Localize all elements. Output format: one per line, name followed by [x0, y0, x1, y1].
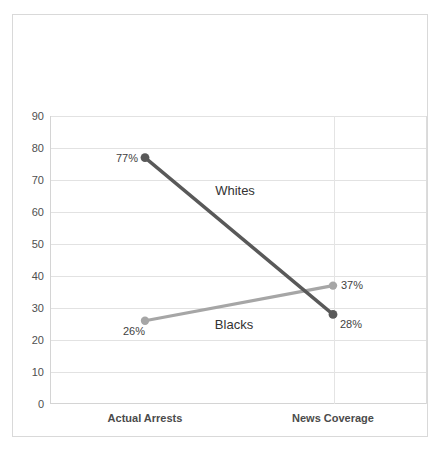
y-tick-30: 30 — [4, 302, 44, 314]
gridline-10 — [51, 372, 426, 373]
y-tick-70: 70 — [4, 174, 44, 186]
category-gridline-news-coverage — [334, 116, 335, 404]
data-label-blacks-actual-arrests: 26% — [123, 325, 145, 337]
data-label-whites-actual-arrests: 77% — [116, 152, 138, 164]
x-tick-actual-arrests: Actual Arrests — [108, 412, 183, 424]
data-label-whites-news-coverage: 28% — [340, 318, 362, 330]
y-tick-10: 10 — [4, 366, 44, 378]
plot-area — [50, 116, 427, 404]
gridline-90 — [51, 116, 426, 117]
series-label-whites: Whites — [215, 183, 255, 198]
y-tick-20: 20 — [4, 334, 44, 346]
y-tick-80: 80 — [4, 142, 44, 154]
gridline-50 — [51, 244, 426, 245]
series-label-blacks: Blacks — [215, 317, 253, 332]
y-tick-50: 50 — [4, 238, 44, 250]
chart-container: 90 80 70 60 50 40 30 20 10 0 77% 28% 26%… — [0, 0, 441, 450]
gridline-40 — [51, 276, 426, 277]
gridline-20 — [51, 340, 426, 341]
y-axis: 90 80 70 60 50 40 30 20 10 0 — [0, 116, 44, 404]
gridline-60 — [51, 212, 426, 213]
gridline-70 — [51, 180, 426, 181]
y-tick-60: 60 — [4, 206, 44, 218]
y-tick-90: 90 — [4, 110, 44, 122]
gridline-30 — [51, 308, 426, 309]
gridline-0 — [51, 403, 426, 404]
data-label-blacks-news-coverage: 37% — [341, 279, 363, 291]
y-tick-40: 40 — [4, 270, 44, 282]
x-axis: Actual Arrests News Coverage — [50, 412, 427, 434]
gridline-80 — [51, 148, 426, 149]
x-tick-news-coverage: News Coverage — [292, 412, 374, 424]
y-tick-0: 0 — [4, 398, 44, 410]
